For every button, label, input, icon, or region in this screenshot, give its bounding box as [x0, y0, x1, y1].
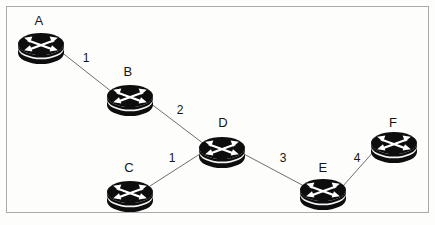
network-diagram-canvas: 12134ABCDEF	[0, 0, 435, 225]
link-cost-label-e-f: 4	[354, 151, 361, 165]
link-cost-label-b-d: 2	[177, 103, 184, 117]
router-node-d[interactable]	[199, 137, 245, 168]
link-cost-label-a-b: 1	[83, 51, 90, 65]
router-node-b[interactable]	[107, 85, 153, 116]
link-d-e	[242, 153, 304, 186]
router-node-f[interactable]	[371, 132, 417, 163]
link-cost-label-c-d: 1	[169, 151, 176, 165]
link-c-d	[150, 152, 203, 186]
router-label-e: E	[319, 160, 328, 175]
router-label-f: F	[389, 115, 397, 130]
router-label-b: B	[124, 64, 133, 79]
router-label-a: A	[35, 13, 44, 28]
link-cost-label-d-e: 3	[280, 151, 287, 165]
topology-svg	[0, 0, 435, 225]
router-node-c[interactable]	[107, 181, 153, 212]
router-node-e[interactable]	[300, 179, 346, 210]
router-label-d: D	[218, 115, 228, 130]
router-node-a[interactable]	[18, 33, 64, 64]
router-label-c: C	[124, 160, 134, 175]
